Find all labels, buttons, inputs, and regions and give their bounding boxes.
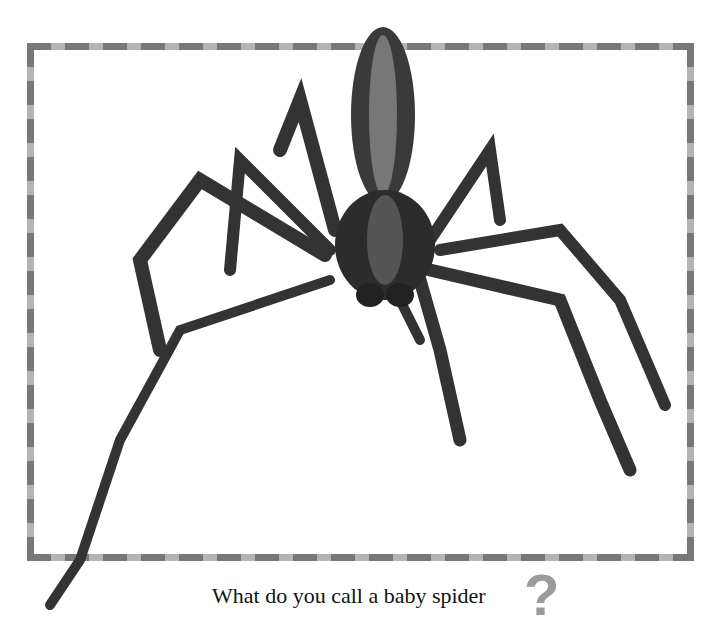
caption-text: What do you call a baby spider	[212, 583, 486, 609]
spider-photo	[0, 0, 725, 629]
question-mark-icon: ?	[524, 566, 559, 624]
